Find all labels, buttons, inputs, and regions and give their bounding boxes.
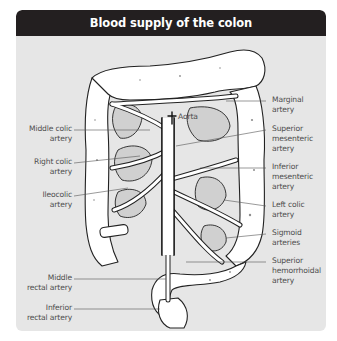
label-inferior-rectal-artery: Inferior rectal artery bbox=[10, 303, 72, 323]
label-left-colic-artery: Left colic artery bbox=[272, 200, 326, 220]
label-superior-hemorrhoidal-artery: Superior hemorrhoidal artery bbox=[272, 256, 330, 286]
label-superior-mesenteric-artery: Superior mesenteric artery bbox=[272, 124, 326, 154]
label-middle-colic-artery: Middle colic artery bbox=[14, 124, 72, 144]
label-right-colic-artery: Right colic artery bbox=[14, 157, 72, 177]
label-aorta: Aorta bbox=[178, 112, 198, 122]
label-middle-rectal-artery: Middle rectal artery bbox=[10, 273, 72, 293]
label-inferior-mesenteric-artery: Inferior mesenteric artery bbox=[272, 162, 326, 192]
label-ileocolic-artery: Ileocolic artery bbox=[14, 190, 72, 210]
colon-shape bbox=[85, 50, 265, 328]
label-marginal-artery: Marginal artery bbox=[272, 95, 326, 115]
label-sigmoid-arteries: Sigmoid arteries bbox=[272, 228, 326, 248]
